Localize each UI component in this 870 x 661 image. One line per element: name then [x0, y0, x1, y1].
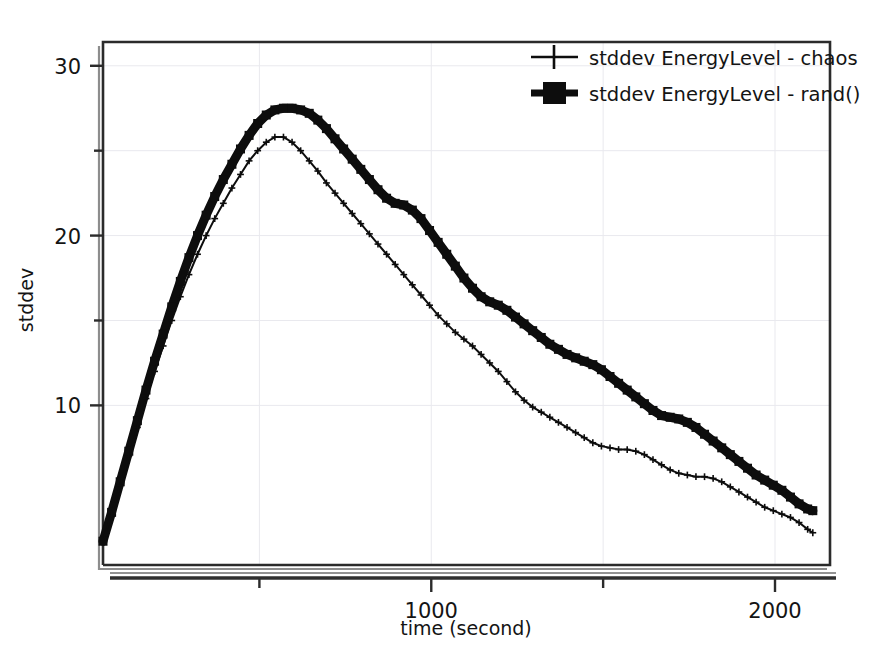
data-marker-square: [262, 111, 271, 120]
data-marker-square: [545, 340, 554, 349]
data-marker-square: [752, 471, 761, 480]
data-marker-square: [305, 109, 314, 118]
data-marker-square: [777, 486, 786, 495]
data-marker-square: [743, 464, 752, 473]
data-marker-square: [726, 450, 735, 459]
data-marker-square: [399, 201, 408, 210]
data-marker-square: [193, 231, 202, 240]
data-marker-square: [322, 124, 331, 133]
data-marker-square: [468, 284, 477, 293]
y-tick-label: 30: [54, 55, 81, 79]
chart-svg: 10203010002000 time (second) stddev stdd…: [0, 0, 870, 661]
data-marker-square: [279, 104, 288, 113]
data-marker-square: [786, 493, 795, 502]
data-marker-square: [408, 206, 417, 215]
data-marker-square: [528, 326, 537, 335]
data-marker-square: [511, 313, 520, 322]
data-marker-square: [176, 277, 185, 286]
data-marker-square: [202, 211, 211, 220]
chart-figure: 10203010002000 time (second) stddev stdd…: [0, 0, 870, 661]
data-marker-square: [666, 413, 675, 422]
data-marker-square: [485, 297, 494, 306]
data-marker-square: [597, 365, 606, 374]
x-tick-label: 2000: [748, 599, 801, 623]
data-marker-square: [563, 350, 572, 359]
data-marker-square: [554, 345, 563, 354]
data-marker-square: [348, 155, 357, 164]
data-marker-square: [477, 292, 486, 301]
data-marker-square: [296, 105, 305, 114]
y-axis-title: stddev: [15, 268, 37, 332]
data-marker-square: [245, 131, 254, 140]
data-marker-square: [657, 411, 666, 420]
data-marker-square: [442, 250, 451, 259]
data-marker-square: [769, 481, 778, 490]
data-marker-square: [356, 165, 365, 174]
data-marker-square: [425, 226, 434, 235]
data-marker-square: [623, 386, 632, 395]
data-marker-square: [700, 430, 709, 439]
data-marker-square: [339, 144, 348, 153]
data-marker-square: [631, 392, 640, 401]
data-marker-square: [795, 499, 804, 508]
data-marker-square: [614, 379, 623, 388]
y-tick-label: 20: [54, 225, 81, 249]
data-marker-square: [717, 443, 726, 452]
data-marker-square: [808, 506, 817, 515]
data-marker-square: [606, 372, 615, 381]
data-marker-square: [494, 301, 503, 310]
data-marker-square: [502, 306, 511, 315]
legend-label-rand: stddev EnergyLevel - rand(): [589, 83, 860, 106]
legend-square-icon: [543, 82, 566, 104]
data-marker-square: [331, 134, 340, 143]
data-marker-square: [760, 476, 769, 485]
data-marker-square: [580, 357, 589, 366]
data-marker-square: [391, 199, 400, 208]
data-marker-square: [709, 437, 718, 446]
legend-label-chaos: stddev EnergyLevel - chaos: [589, 47, 858, 70]
data-marker-square: [313, 116, 322, 125]
data-marker-square: [434, 238, 443, 247]
data-marker-square: [236, 144, 245, 153]
data-marker-square: [459, 274, 468, 283]
data-marker-square: [210, 192, 219, 201]
data-marker-square: [588, 360, 597, 369]
data-marker-square: [648, 406, 657, 415]
data-marker-square: [382, 194, 391, 203]
data-marker-square: [288, 104, 297, 113]
data-marker-square: [219, 175, 228, 184]
data-marker-square: [691, 423, 700, 432]
data-marker-square: [571, 353, 580, 362]
data-marker-square: [184, 253, 193, 262]
x-axis-title: time (second): [400, 617, 532, 639]
data-marker-square: [416, 214, 425, 223]
data-marker-square: [683, 418, 692, 427]
data-marker-square: [227, 160, 236, 169]
data-marker-square: [674, 414, 683, 423]
data-marker-square: [537, 333, 546, 342]
data-marker-square: [520, 319, 529, 328]
y-tick-label: 10: [54, 394, 81, 418]
data-marker-square: [253, 119, 262, 128]
data-marker-square: [373, 185, 382, 194]
data-marker-square: [451, 262, 460, 271]
data-marker-square: [734, 457, 743, 466]
data-marker-square: [270, 105, 279, 114]
data-marker-square: [640, 399, 649, 408]
data-marker-square: [365, 175, 374, 184]
